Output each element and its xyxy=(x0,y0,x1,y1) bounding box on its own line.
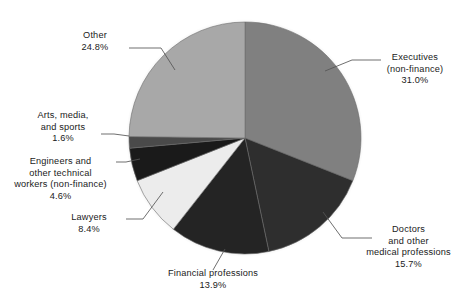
pie-label-other: Other 24.8% xyxy=(62,30,128,53)
pie-label-executives: Executives (non-finance) 31.0% xyxy=(372,52,458,87)
pie-label-arts: Arts, media, and sports 1.6% xyxy=(26,110,100,145)
pie-slice-group xyxy=(129,22,361,254)
pie-label-doctors: Doctors and other medical professions 15… xyxy=(358,224,459,270)
leader-line-arts xyxy=(101,134,129,136)
pie-chart-figure: Executives (non-finance) 31.0% Doctors a… xyxy=(0,0,459,306)
pie-label-engineers: Engineers and other technical workers (n… xyxy=(6,156,115,202)
pie-label-lawyers: Lawyers 8.4% xyxy=(53,212,125,235)
pie-slice-other[interactable] xyxy=(129,22,245,138)
pie-label-financial: Financial professions 13.9% xyxy=(143,268,283,291)
